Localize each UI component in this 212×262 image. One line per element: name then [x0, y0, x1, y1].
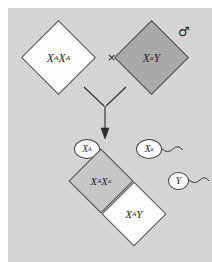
arrow-head: [101, 128, 109, 139]
sperm-gamete-y-circle: Y: [168, 172, 189, 190]
mother-allele1-base: X: [47, 52, 54, 64]
mother-connector-line: [84, 87, 104, 106]
father-genotype-label: XaY: [126, 32, 177, 83]
son-genotype-label: XAY: [112, 192, 156, 236]
male-sex-symbol: ♂: [178, 25, 190, 38]
sperm-xa-tail: [162, 147, 183, 152]
mother-allele2-base: X: [59, 52, 66, 64]
genetics-cross-figure: ♀ XAXA × ♂ XaY XA Xa Y XAXa XAY: [8, 8, 212, 262]
father-connector-line: [106, 87, 126, 106]
father-allele2-base: Y: [154, 52, 161, 64]
son-genotype-diamond: XAY: [101, 181, 166, 246]
sperm-gamete-xa-circle: Xa: [136, 139, 162, 159]
son-allele2-base: Y: [136, 209, 142, 220]
sperm-y-base: Y: [176, 176, 181, 186]
father-allele1-base: X: [143, 52, 150, 64]
mother-genotype-diamond: XAXA: [21, 20, 96, 95]
mother-genotype-label: XAXA: [33, 32, 84, 83]
daughter-allele2-base: X: [101, 176, 108, 187]
sperm-y-tail: [189, 178, 209, 183]
